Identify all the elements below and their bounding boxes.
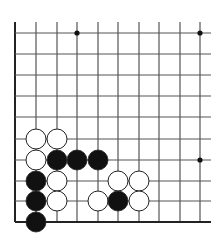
black-stone[interactable] [88,150,108,170]
white-stone[interactable] [47,129,67,149]
white-stone[interactable] [108,171,128,191]
black-stone[interactable] [47,150,67,170]
star-point-icon [197,30,202,35]
white-stone[interactable] [129,171,149,191]
white-stone[interactable] [26,150,46,170]
star-point-icon [197,157,202,162]
black-stone[interactable] [26,212,46,232]
black-stone[interactable] [108,191,128,211]
black-stone[interactable] [67,150,87,170]
white-stone[interactable] [88,191,108,211]
black-stone[interactable] [26,171,46,191]
go-board-grid[interactable] [0,0,223,242]
star-point-icon [74,30,79,35]
white-stone[interactable] [129,191,149,211]
go-board[interactable] [0,0,223,242]
white-stone[interactable] [47,191,67,211]
black-stone[interactable] [26,191,46,211]
white-stone[interactable] [47,171,67,191]
white-stone[interactable] [26,129,46,149]
